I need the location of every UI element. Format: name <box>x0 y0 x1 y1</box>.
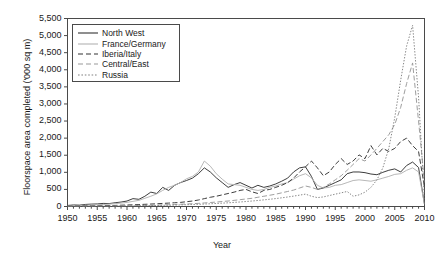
legend-item-label: France/Germany <box>99 39 166 49</box>
series-line <box>68 138 425 206</box>
line-chart: 05001,0001,5002,0002,5003,0003,5004,0004… <box>0 0 444 262</box>
legend-line-swatch-icon <box>77 59 99 69</box>
legend-item-russia[interactable]: Russia <box>77 70 175 80</box>
legend-item-france-germany[interactable]: France/Germany <box>77 38 175 48</box>
y-axis-title: Floorspace area completed ('000 sq m) <box>22 22 32 212</box>
legend-line-swatch-icon <box>77 70 99 80</box>
legend-item-label: Russia <box>99 70 128 80</box>
legend-item-central-east[interactable]: Central/East <box>77 59 175 69</box>
plot-area <box>0 0 444 262</box>
x-tick-label: 2010 <box>405 213 444 223</box>
legend-item-label: Central/East <box>99 59 149 69</box>
chart-legend: North WestFrance/GermanyIberia/ItalyCent… <box>72 24 180 82</box>
y-tick-label: 5,500 <box>18 13 62 23</box>
series-line <box>68 162 425 205</box>
legend-line-swatch-icon <box>77 28 99 38</box>
x-axis-title: Year <box>0 240 444 250</box>
legend-item-north-west[interactable]: North West <box>77 28 175 38</box>
series-line <box>68 161 425 206</box>
legend-item-iberia-italy[interactable]: Iberia/Italy <box>77 49 175 59</box>
legend-item-label: North West <box>99 28 144 38</box>
legend-line-swatch-icon <box>77 39 99 49</box>
legend-line-swatch-icon <box>77 49 99 59</box>
legend-item-label: Iberia/Italy <box>99 49 141 59</box>
